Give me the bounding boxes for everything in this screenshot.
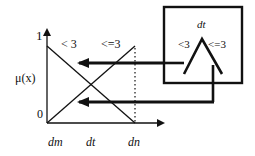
y-axis-label-text: μ(x) [15,71,35,85]
membership-diagram: 1 0 μ(x) dm dt dn < 3 <=3 dt <3 <=3 [0,0,255,156]
x-tick-dt: dt [86,135,96,149]
node-title: dt [197,18,207,30]
x-tick-dn: dn [128,135,140,149]
y-tick-bottom: 0 [37,107,43,121]
descending-curve-label: < 3 [61,37,77,51]
node-left-label: <3 [178,38,190,50]
y-axis-label: μ(x) [15,71,35,85]
x-tick-dm: dm [48,135,63,149]
ascending-curve-label: <=3 [101,37,121,51]
node-right-label: <=3 [208,38,226,50]
y-tick-top: 1 [36,28,43,43]
